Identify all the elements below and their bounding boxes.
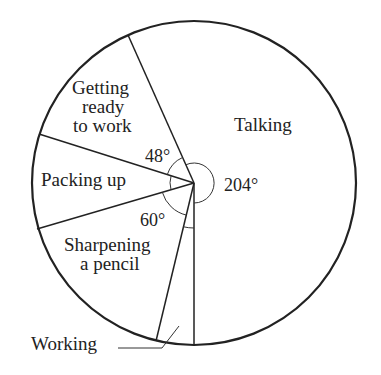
label-working: Working [31, 333, 98, 354]
arc-packing-up [170, 176, 171, 190]
label-talking: Talking [234, 114, 292, 135]
label-getting-ready-line2: ready [82, 96, 125, 117]
angle-label-getting-ready: 48° [145, 146, 170, 166]
working-leader-line [118, 326, 179, 348]
arc-working [184, 227, 195, 228]
label-packing-up: Packing up [41, 169, 126, 190]
pie-chart: Talking Getting ready to work Packing up… [0, 0, 381, 375]
angle-arcs [162, 158, 214, 229]
angle-label-talking: 204° [224, 175, 258, 195]
angle-label-sharpening: 60° [140, 210, 165, 230]
boundary-sharpening-working [156, 183, 194, 341]
label-getting-ready-line1: Getting [72, 77, 129, 98]
arc-sharpening [162, 192, 186, 215]
label-sharpening-line2: a pencil [80, 253, 140, 274]
label-sharpening-line1: Sharpening [64, 234, 151, 255]
label-getting-ready-line3: to work [73, 115, 132, 136]
